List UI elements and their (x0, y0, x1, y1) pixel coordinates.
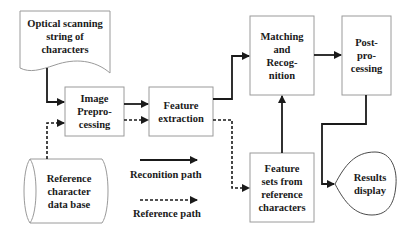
post-processing-label: Post- pro- cessing (342, 16, 391, 95)
matching-recognition-label: Matching and Recog- nition (250, 16, 314, 95)
results-display-label: Results display (345, 152, 395, 215)
edge-extraction-to-matching (213, 56, 249, 99)
edge-database-to-preprocessing (47, 123, 64, 159)
legend-reference-path-label: Reference path (133, 208, 201, 219)
edge-extraction-to-featuresets (213, 120, 249, 188)
edge-scan-to-preprocessing (47, 68, 64, 102)
reference-database-label: Reference character data base (32, 159, 106, 223)
feature-extraction-label: Feature extraction (149, 87, 213, 136)
image-preprocessing-label: Image Prepro- cessing (65, 87, 124, 136)
legend-recognition-path-label: Reconition path (130, 169, 201, 180)
optical-scanning-label: Optical scanning string of characters (20, 12, 110, 60)
feature-sets-label: Feature sets from reference characters (250, 153, 314, 222)
